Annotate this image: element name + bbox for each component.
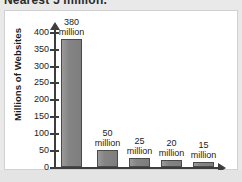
y-tick xyxy=(50,66,59,68)
y-tick-label: 200 xyxy=(9,95,49,104)
title-text: Nearest 5 million. xyxy=(4,0,107,7)
bar-germany xyxy=(129,158,150,167)
y-tick-label: 150 xyxy=(9,112,49,121)
y-tick-label: 100 xyxy=(9,129,49,138)
bar-brazil xyxy=(193,162,214,167)
cut-off-title: Nearest 5 million. xyxy=(0,0,242,9)
y-tick xyxy=(50,116,59,118)
y-tick xyxy=(50,49,59,51)
value-label-brazil: 15 million xyxy=(179,140,228,160)
y-tick-label: 400 xyxy=(9,28,49,37)
bar-italy xyxy=(161,160,182,167)
y-tick xyxy=(50,99,59,101)
y-tick xyxy=(50,133,59,135)
y-tick xyxy=(50,150,59,152)
y-tick-label: 300 xyxy=(9,62,49,71)
bottom-margin xyxy=(0,170,242,182)
x-axis-line xyxy=(54,167,220,169)
y-tick xyxy=(50,82,59,84)
y-tick-label: 350 xyxy=(9,45,49,54)
y-tick-label: 250 xyxy=(9,78,49,87)
value-label-usa: 380 million xyxy=(47,17,96,37)
bar-usa xyxy=(61,39,82,167)
chart-screenshot: Nearest 5 million. Millions of Websites … xyxy=(0,0,242,182)
y-tick xyxy=(50,167,59,169)
chart-panel: Millions of Websites 0 50 100 150 200 25… xyxy=(4,10,238,170)
y-tick-label: 50 xyxy=(9,146,49,155)
